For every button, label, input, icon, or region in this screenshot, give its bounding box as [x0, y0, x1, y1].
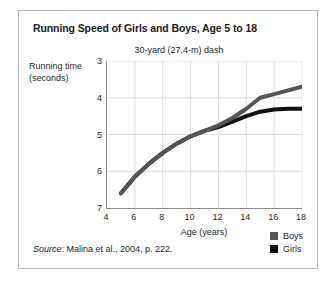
x-axis-tick: 12	[212, 212, 222, 222]
page-title: Running Speed of Girls and Boys, Age 5 t…	[33, 22, 257, 34]
figure-panel: Running Speed of Girls and Boys, Age 5 t…	[18, 10, 318, 269]
x-axis-tick: 10	[185, 212, 195, 222]
chart-legend: BoysGirls	[270, 228, 303, 254]
x-axis-tick: 4	[103, 212, 108, 222]
chart-svg	[107, 61, 302, 208]
x-axis-tick: 16	[268, 212, 278, 222]
source-note: Source: Malina et al., 2004, p. 222.	[33, 244, 173, 254]
legend-label: Boys	[283, 231, 303, 241]
x-axis-tick: 8	[159, 212, 164, 222]
legend-label: Girls	[283, 244, 302, 254]
y-axis-tick: 5	[97, 130, 102, 140]
y-axis-tick: 6	[97, 166, 102, 176]
y-axis-label-line2: (seconds)	[29, 73, 82, 85]
y-axis-label: Running time (seconds)	[29, 61, 82, 84]
y-axis-tick: 7	[97, 203, 102, 213]
y-axis-tick: 4	[97, 93, 102, 103]
legend-swatch-icon	[270, 232, 278, 240]
y-axis-label-line1: Running time	[29, 61, 82, 73]
legend-item: Boys	[270, 231, 303, 241]
plot-area: 345674681012141618	[106, 61, 302, 209]
y-axis-tick: 3	[97, 56, 102, 66]
legend-item: Girls	[270, 244, 303, 254]
source-label: Source	[33, 244, 62, 254]
x-axis-tick: 18	[296, 212, 306, 222]
series-line-girls	[121, 109, 302, 194]
x-axis-tick: 14	[240, 212, 250, 222]
chart-subtitle: 30-yard (27.4-m) dash	[19, 45, 317, 55]
plot-canvas	[106, 61, 302, 209]
series-line-boys	[121, 87, 302, 194]
x-axis-tick: 6	[131, 212, 136, 222]
source-citation: : Malina et al., 2004, p. 222.	[62, 244, 173, 254]
legend-swatch-icon	[270, 245, 278, 253]
